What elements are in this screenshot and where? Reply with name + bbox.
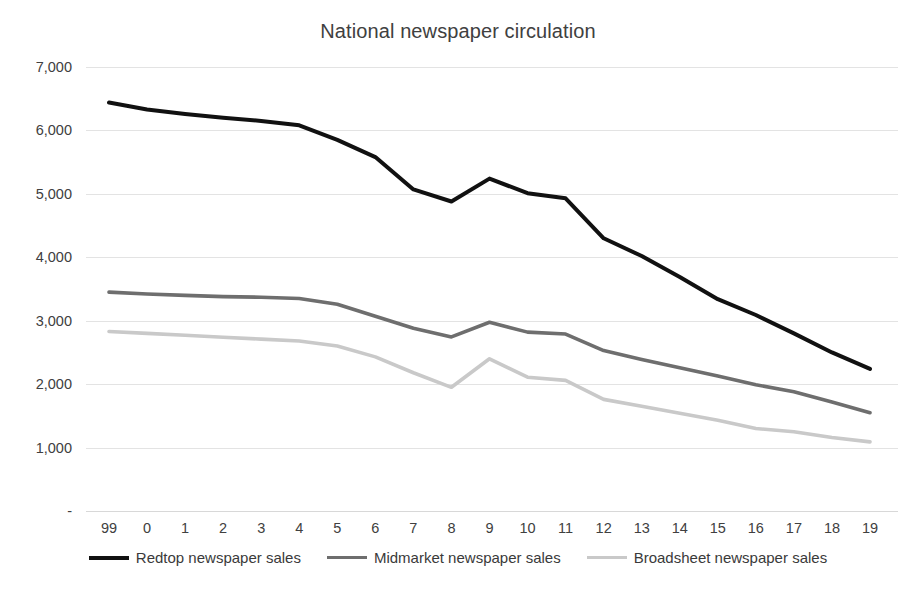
y-axis-tick-labels: -1,0002,0003,0004,0005,0006,0007,000 [36,59,72,519]
x-axis-tick-label: 15 [710,520,726,536]
x-axis-tick-label: 6 [371,520,379,536]
legend-swatch-icon [587,556,627,559]
series-lines-group [109,103,870,442]
series-line [109,103,870,369]
x-axis-tick-label: 99 [101,520,117,536]
legend-label: Midmarket newspaper sales [374,549,561,566]
legend-item[interactable]: Redtop newspaper sales [89,549,301,566]
y-axis-tick-label: 7,000 [36,59,72,75]
legend-swatch-icon [327,556,367,559]
x-axis-tick-label: 17 [786,520,802,536]
x-axis-tick-label: 3 [257,520,265,536]
y-axis-tick-label: 5,000 [36,186,72,202]
legend-label: Broadsheet newspaper sales [634,549,827,566]
x-axis-tick-label: 8 [447,520,455,536]
x-axis-tick-label: 19 [862,520,878,536]
x-axis-tick-label: 12 [596,520,612,536]
x-axis-tick-label: 9 [485,520,493,536]
x-axis-tick-label: 14 [672,520,688,536]
gridlines-group [86,68,898,512]
legend-item[interactable]: Midmarket newspaper sales [327,549,561,566]
y-axis-tick-label: - [67,503,72,519]
chart-container: National newspaper circulation -1,0002,0… [0,0,916,594]
y-axis-tick-label: 2,000 [36,376,72,392]
legend-swatch-icon [89,556,129,560]
y-axis-tick-label: 6,000 [36,122,72,138]
plot-area: -1,0002,0003,0004,0005,0006,0007,000 990… [0,0,916,594]
x-axis-tick-label: 0 [143,520,151,536]
y-axis-tick-label: 4,000 [36,249,72,265]
x-axis-tick-labels: 99012345678910111213141516171819 [101,520,878,536]
y-axis-tick-label: 1,000 [36,440,72,456]
chart-legend: Redtop newspaper salesMidmarket newspape… [0,549,916,566]
x-axis-tick-label: 16 [748,520,764,536]
x-axis-tick-label: 2 [219,520,227,536]
series-line [109,292,870,413]
series-line [109,332,870,442]
y-axis-tick-label: 3,000 [36,313,72,329]
x-axis-tick-label: 10 [519,520,535,536]
x-axis-tick-label: 5 [333,520,341,536]
x-axis-tick-label: 13 [634,520,650,536]
x-axis-tick-label: 7 [409,520,417,536]
x-axis-tick-label: 4 [295,520,303,536]
x-axis-tick-label: 18 [824,520,840,536]
legend-label: Redtop newspaper sales [136,549,301,566]
x-axis-tick-label: 1 [181,520,189,536]
x-axis-tick-label: 11 [558,520,573,536]
legend-item[interactable]: Broadsheet newspaper sales [587,549,827,566]
